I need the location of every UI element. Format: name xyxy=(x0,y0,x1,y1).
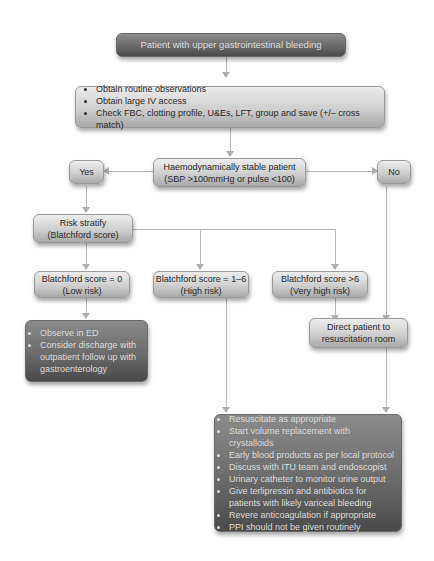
arrow-icon xyxy=(82,264,90,270)
no-node: No xyxy=(377,160,411,184)
yes-node: Yes xyxy=(69,160,104,184)
yes-label: Yes xyxy=(79,166,94,178)
list-item: Urinary catheter to monitor urine output xyxy=(229,473,397,485)
connector-to-score-mid xyxy=(200,229,201,269)
connector-risk-branch xyxy=(132,229,335,230)
score-mid-line2: (High risk) xyxy=(180,285,221,297)
connector-decision-to-no xyxy=(306,171,374,172)
risk-stratify-line2: (Blatchford score) xyxy=(47,229,118,241)
list-item: Consider discharge with outpatient follo… xyxy=(40,339,143,375)
low-risk-actions-node: Observe in ED Consider discharge with ou… xyxy=(25,320,148,382)
no-label: No xyxy=(388,166,400,178)
list-item: Check FBC, clotting profile, U&Es, LFT, … xyxy=(96,107,384,131)
risk-stratify-line1: Risk stratify xyxy=(60,217,107,229)
connector-to-score-high xyxy=(335,229,336,269)
resus-line2: resuscitation room xyxy=(322,333,396,345)
arrow-icon xyxy=(82,313,90,319)
decision-line1: Haemodynamically stable patient xyxy=(163,161,295,173)
list-item: Obtain large IV access xyxy=(96,95,384,107)
initial-actions-list: Obtain routine observations Obtain large… xyxy=(80,83,384,131)
decision-node: Haemodynamically stable patient (SBP >10… xyxy=(153,158,306,187)
list-item: Give terlipressin and antibiotics for pa… xyxy=(229,485,397,509)
list-item: Discuss with ITU team and endoscopist xyxy=(229,461,397,473)
start-node-label: Patient with upper gastrointestinal blee… xyxy=(140,39,321,51)
score-low-line1: Blatchford score = 0 xyxy=(42,273,122,285)
initial-actions-node: Obtain routine observations Obtain large… xyxy=(75,86,385,128)
list-item: PPI should not be given routinely xyxy=(229,521,397,533)
list-item: Resuscitate as appropriate xyxy=(229,413,397,425)
resus-line1: Direct patient to xyxy=(327,321,390,333)
score-mid-line1: Blatchford score = 1–6 xyxy=(156,273,246,285)
high-risk-actions-node: Resuscitate as appropriate Start volume … xyxy=(214,414,402,532)
resus-node: Direct patient to resuscitation room xyxy=(309,318,408,348)
list-item: Obtain routine observations xyxy=(96,83,384,95)
score-low-node: Blatchford score = 0 (Low risk) xyxy=(34,271,130,298)
list-item: Revere anticoagulation if appropriate xyxy=(229,509,397,521)
score-high-node: Blatchford score >6 (Very high risk) xyxy=(272,271,368,298)
arrow-icon xyxy=(331,264,339,270)
list-item: Start volume replacement with crystalloi… xyxy=(229,425,397,449)
arrow-icon xyxy=(196,264,204,270)
score-high-line1: Blatchford score >6 xyxy=(281,273,359,285)
list-item: Observe in ED xyxy=(40,327,143,339)
decision-line2: (SBP >100mmHg or pulse <100) xyxy=(164,173,294,185)
low-risk-actions-list: Observe in ED Consider discharge with ou… xyxy=(26,327,143,375)
arrow-icon xyxy=(226,151,234,157)
connector-score-mid-to-high-actions xyxy=(226,297,227,411)
score-low-line2: (Low risk) xyxy=(62,285,101,297)
score-high-line2: (Very high risk) xyxy=(290,285,350,297)
score-mid-node: Blatchford score = 1–6 (High risk) xyxy=(153,271,249,298)
arrow-icon xyxy=(82,207,90,213)
list-item: Early blood products as per local protoc… xyxy=(229,449,397,461)
connector-no-down xyxy=(386,186,387,320)
connector-decision-to-yes xyxy=(107,171,154,172)
connector-resus-to-high-actions xyxy=(386,348,387,411)
high-risk-actions-list: Resuscitate as appropriate Start volume … xyxy=(215,413,397,533)
start-node: Patient with upper gastrointestinal blee… xyxy=(116,33,346,57)
risk-stratify-node: Risk stratify (Blatchford score) xyxy=(33,214,133,243)
arrow-icon xyxy=(222,72,230,78)
